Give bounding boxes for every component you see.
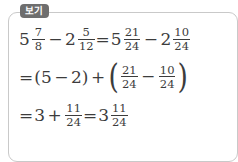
line1-minus-operator-2: − — [141, 31, 160, 48]
line2-big-paren-open: ( — [109, 62, 119, 91]
line3-answer-whole: 3 — [98, 107, 110, 124]
line3-answer-fraction: 11 24 — [110, 102, 129, 128]
line3-fraction-1: 11 24 — [64, 102, 83, 128]
line2-whole-1: 5 — [41, 69, 52, 86]
line2-fraction-1: 21 24 — [120, 64, 139, 90]
line2-whole-2: 2 — [71, 69, 82, 86]
line1-term3-denominator: 24 — [124, 40, 141, 53]
line3-fraction-1-numerator: 11 — [65, 102, 82, 115]
line1-term2-fraction: 5 12 — [77, 26, 96, 52]
line1-term4-denominator: 24 — [173, 40, 190, 53]
line2-fraction-2-numerator: 10 — [159, 64, 176, 77]
line1-term4-whole: 2 — [161, 31, 173, 48]
line3-answer-numerator: 11 — [111, 102, 128, 115]
line3-plus-operator: + — [45, 107, 64, 124]
example-label-badge: 보기 — [20, 4, 49, 18]
example-label-text: 보기 — [25, 5, 44, 16]
line1-minus-operator: − — [46, 31, 65, 48]
line1-term3-numerator: 21 — [124, 26, 141, 39]
equation-block: 5 7 8 − 2 5 12 = 5 21 24 − 2 10 24 = ( — [19, 20, 214, 134]
line2-paren-close: ) — [82, 69, 89, 86]
line1-term4-numerator: 10 — [173, 26, 190, 39]
line2-fraction-1-numerator: 21 — [121, 64, 138, 77]
line3-whole-1: 3 — [34, 107, 45, 124]
line2-equals-sign: = — [19, 69, 34, 86]
line1-term3-whole: 5 — [111, 31, 123, 48]
line3-equals-sign-2: = — [83, 107, 98, 124]
line1-term1-numerator: 7 — [34, 26, 43, 39]
line1-term4-fraction: 10 24 — [172, 26, 191, 52]
line2-paren-open: ( — [34, 69, 41, 86]
equation-line-1: 5 7 8 − 2 5 12 = 5 21 24 − 2 10 24 — [19, 20, 214, 58]
line3-answer-denominator: 24 — [111, 116, 128, 129]
line2-minus-operator: − — [52, 69, 71, 86]
line1-term2-whole: 2 — [65, 31, 77, 48]
line2-fraction-group: ( 21 24 − 10 24 ) — [108, 62, 189, 91]
line2-minus-operator-2: − — [139, 68, 158, 85]
line1-term2-denominator: 12 — [78, 40, 95, 53]
line2-fraction-2-denominator: 24 — [159, 77, 176, 90]
line1-term2-numerator: 5 — [82, 26, 91, 39]
line3-fraction-1-denominator: 24 — [65, 116, 82, 129]
line1-term1-whole: 5 — [19, 31, 31, 48]
line2-big-paren-close: ) — [177, 62, 187, 91]
equation-line-2: = ( 5 − 2 ) + ( 21 24 − 10 24 ) — [19, 58, 214, 96]
line1-term3-fraction: 21 24 — [123, 26, 142, 52]
line1-term1-denominator: 8 — [34, 40, 43, 53]
line1-equals-sign: = — [96, 31, 111, 48]
line2-fraction-2: 10 24 — [158, 64, 177, 90]
line3-equals-sign: = — [19, 107, 34, 124]
line2-plus-operator: + — [88, 69, 107, 86]
line1-term1-fraction: 7 8 — [31, 26, 46, 52]
equation-line-3: = 3 + 11 24 = 3 11 24 — [19, 96, 214, 134]
line2-fraction-1-denominator: 24 — [121, 77, 138, 90]
